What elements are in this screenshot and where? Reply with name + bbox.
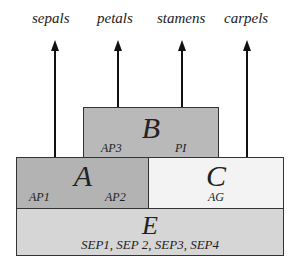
gene-ap3: AP3 — [101, 141, 122, 156]
gene-box-c: C AG — [148, 157, 284, 210]
arrow-shaft — [54, 48, 56, 158]
gene-ap2: AP2 — [105, 190, 126, 205]
organ-label-carpels: carpels — [224, 10, 268, 27]
organ-label-stamens: stamens — [157, 10, 205, 27]
gene-ap1: AP1 — [29, 190, 50, 205]
gene-box-e: E SEP1, SEP 2, SEP3, SEP4 — [16, 208, 284, 256]
arrow-shaft — [117, 48, 119, 108]
gene-box-a: A AP1 AP2 — [16, 157, 150, 210]
class-letter-a: A — [17, 161, 149, 191]
class-letter-b: B — [84, 113, 218, 143]
organ-label-sepals: sepals — [32, 10, 70, 27]
arrow-shaft — [246, 48, 248, 158]
gene-box-b: B AP3 PI — [83, 107, 219, 159]
arrow-shaft — [181, 48, 183, 108]
class-letter-c: C — [149, 161, 283, 191]
organ-label-petals: petals — [97, 10, 133, 27]
gene-pi: PI — [175, 141, 186, 156]
genes-sep: SEP1, SEP 2, SEP3, SEP4 — [17, 237, 283, 253]
gene-ag: AG — [149, 190, 283, 205]
